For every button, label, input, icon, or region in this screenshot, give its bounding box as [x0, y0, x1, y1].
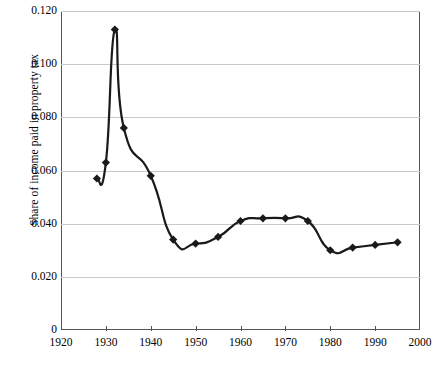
x-tick-label: 1930 [94, 336, 117, 348]
data-point-marker [192, 240, 200, 248]
y-tick-label: 0.040 [3, 218, 57, 230]
data-point-marker [281, 214, 289, 222]
x-tick-mark [151, 326, 152, 331]
x-tick-label: 1960 [229, 336, 252, 348]
x-tick-label: 1990 [364, 336, 387, 348]
x-tick-label: 1940 [139, 336, 162, 348]
data-point-marker [371, 241, 379, 249]
y-tick-label: 0.100 [3, 58, 57, 70]
x-tick-label: 1950 [184, 336, 207, 348]
data-point-marker [349, 243, 357, 251]
x-tick-mark [241, 326, 242, 331]
y-tick-label: 0.120 [3, 5, 57, 17]
x-tick-label: 1980 [319, 336, 342, 348]
y-tick-label: 0.020 [3, 271, 57, 283]
y-tick-label: 0 [3, 324, 57, 336]
data-series-line [61, 11, 420, 330]
x-tick-label: 1920 [50, 336, 73, 348]
data-point-marker [147, 172, 155, 180]
y-tick-label: 0.060 [3, 165, 57, 177]
x-tick-mark [285, 326, 286, 331]
data-point-marker [236, 217, 244, 225]
data-point-marker [120, 124, 128, 132]
data-point-marker [259, 214, 267, 222]
y-axis-tick-labels: 00.0200.0400.0600.0800.1000.120 [0, 11, 57, 330]
plot-area [61, 11, 420, 330]
x-tick-mark [375, 326, 376, 331]
x-tick-mark [196, 326, 197, 331]
x-axis-tick-labels: 192019301940195019601970198019902000 [61, 331, 420, 361]
property-tax-share-chart: Share of income paid in property tax 00.… [0, 0, 439, 367]
x-tick-mark [106, 326, 107, 331]
data-point-marker [393, 238, 401, 246]
x-tick-mark [330, 326, 331, 331]
data-point-marker [102, 158, 110, 166]
y-tick-label: 0.080 [3, 111, 57, 123]
x-tick-label: 2000 [409, 336, 432, 348]
x-tick-label: 1970 [274, 336, 297, 348]
series-line [97, 29, 398, 254]
